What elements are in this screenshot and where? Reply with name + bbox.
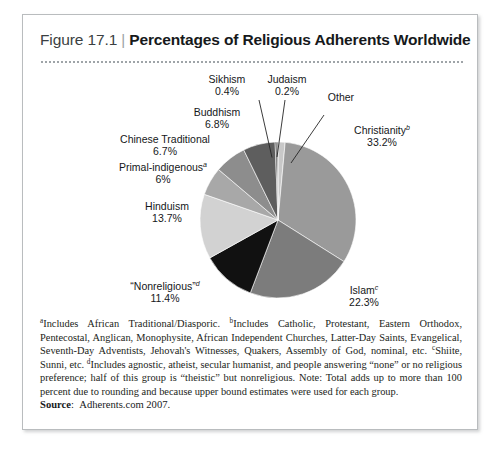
pie-label-primal-indigenous-footnote: a [203, 161, 207, 168]
pie-label-islam-value: 22.3% [329, 296, 399, 308]
pie-label-nonreligious-value: 11.4% [110, 292, 220, 304]
pie-label-sikhism-value: 0.4% [192, 85, 262, 97]
note-text-d: Includes agnostic, atheist, secular huma… [40, 359, 462, 397]
pie-label-nonreligious-footnote: d [196, 280, 200, 287]
pie-label-primal-indigenous-name: Primal-indigenous [119, 161, 203, 173]
title-divider [41, 61, 463, 65]
pie-label-christianity-footnote: b [406, 124, 410, 131]
pie-label-primal-indigenous-value: 6% [101, 173, 225, 185]
pie-label-sikhism: Sikhism 0.4% [192, 73, 262, 98]
source-separator: : [71, 399, 74, 410]
pie-label-christianity: Christianityb 33.2% [333, 124, 431, 149]
pie-label-primal-indigenous: Primal-indigenousa 6% [101, 161, 225, 186]
page-title: Percentages of Religious Adherents World… [129, 31, 470, 48]
pie-label-islam-name: Islam [350, 284, 375, 296]
pie-label-other-name: Other [328, 91, 354, 103]
pie-label-christianity-name: Christianity [354, 124, 406, 136]
pie-label-islam: Islamc 22.3% [329, 284, 399, 309]
figure-number: Figure 17.1 [40, 31, 117, 48]
pie-label-buddhism-name: Buddhism [194, 106, 241, 118]
source-value: Adherents.com 2007. [79, 399, 170, 410]
pie-label-judaism-value: 0.2% [254, 85, 320, 97]
pie-label-other: Other [315, 91, 367, 103]
pie-label-hinduism: Hinduism 13.7% [125, 200, 209, 225]
figure-title-row: Figure 17.1|Percentages of Religious Adh… [40, 31, 464, 55]
pie-label-hinduism-name: Hinduism [145, 200, 189, 212]
pie-label-judaism: Judaism 0.2% [254, 73, 320, 98]
pie-label-hinduism-value: 13.7% [125, 212, 209, 224]
source-line: Source: Adherents.com 2007. [40, 399, 462, 410]
pie-label-islam-footnote: c [375, 284, 379, 291]
pie-label-buddhism: Buddhism 6.8% [175, 106, 259, 131]
figure-notes: aIncludes African Traditional/Diasporic.… [40, 317, 462, 399]
pie-chart: Sikhism 0.4% Judaism 0.2% Other Buddhism… [23, 67, 477, 313]
title-separator: | [121, 31, 125, 48]
figure-box: Figure 17.1|Percentages of Religious Adh… [22, 14, 478, 430]
pie-label-nonreligious: “Nonreligious”d 11.4% [110, 280, 220, 305]
note-text-a: Includes African Traditional/Diasporic. [43, 318, 229, 329]
pie-chart-svg [23, 67, 477, 313]
pie-label-chinese-traditional: Chinese Traditional 6.7% [99, 133, 231, 158]
source-label: Source [40, 399, 71, 410]
pie-label-christianity-value: 33.2% [333, 136, 431, 148]
pie-label-sikhism-name: Sikhism [209, 73, 246, 85]
pie-label-buddhism-value: 6.8% [175, 118, 259, 130]
pie-label-chinese-traditional-name: Chinese Traditional [120, 133, 210, 145]
pie-label-judaism-name: Judaism [267, 73, 306, 85]
pie-label-nonreligious-name: “Nonreligious” [130, 280, 195, 292]
pie-label-chinese-traditional-value: 6.7% [99, 145, 231, 157]
